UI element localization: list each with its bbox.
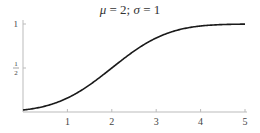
y-tick-label-numerator: 1 (14, 60, 18, 68)
y-tick-label-denominator: 2 (14, 69, 18, 77)
y-tick-label: 1 (14, 19, 19, 29)
x-tick-label: 4 (198, 116, 203, 127)
x-tick-label: 3 (154, 116, 159, 127)
x-tick-label: 5 (243, 116, 248, 127)
x-tick-label: 1 (65, 116, 70, 127)
plot-area: 12345121 (0, 0, 260, 133)
cdf-curve (23, 24, 245, 110)
x-tick-label: 2 (109, 116, 114, 127)
